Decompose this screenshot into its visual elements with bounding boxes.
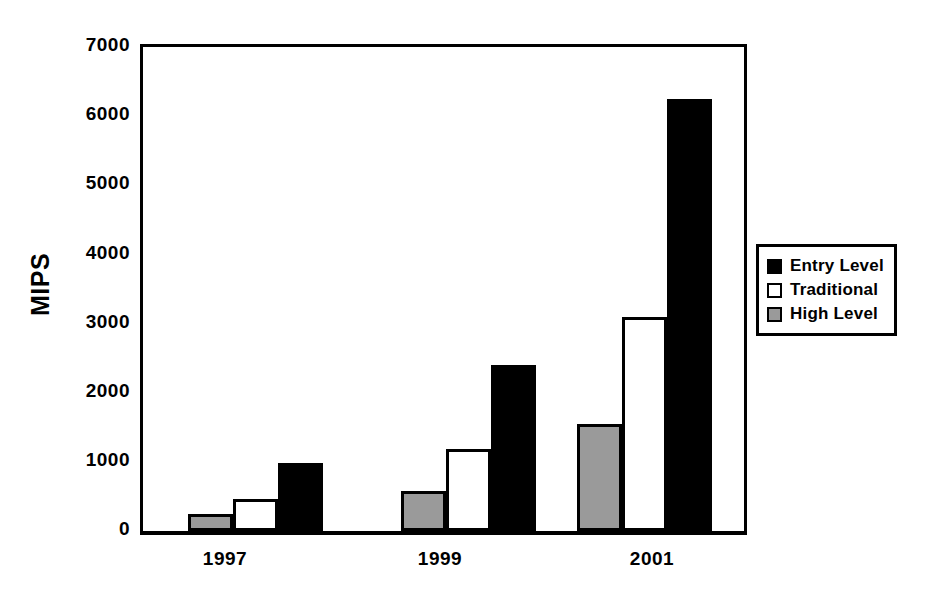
legend-item-label: Entry Level: [790, 256, 884, 276]
y-tick-label: 7000: [50, 35, 130, 54]
bar-traditional: [446, 449, 491, 531]
plot-area: [140, 44, 747, 535]
x-tick-label-1999: 1999: [380, 548, 500, 570]
y-tick-label: 2000: [50, 381, 130, 400]
bar-entry-level: [667, 99, 712, 531]
legend-item-label: High Level: [790, 304, 878, 324]
x-tick-label-1997: 1997: [165, 548, 285, 570]
bar-traditional: [233, 499, 278, 531]
legend: Entry Level Traditional High Level: [756, 244, 897, 336]
gray-swatch-icon: [767, 307, 782, 322]
legend-item-high-level: High Level: [767, 302, 884, 326]
bar-chart: MIPS 7000 6000 5000 4000 3000 2000 1000 …: [0, 0, 931, 598]
y-tick-label: 3000: [50, 312, 130, 331]
legend-item-entry-level: Entry Level: [767, 254, 884, 278]
bar-high-level: [188, 514, 233, 531]
bar-entry-level: [491, 365, 536, 531]
y-tick-label: 4000: [50, 243, 130, 262]
white-swatch-icon: [767, 283, 782, 298]
legend-item-label: Traditional: [790, 280, 878, 300]
bar-entry-level: [278, 463, 323, 531]
bars-container: [143, 47, 744, 531]
y-tick-label: 5000: [50, 173, 130, 192]
y-tick-label: 1000: [50, 450, 130, 469]
bar-high-level: [401, 491, 446, 531]
y-axis-tick-labels: 7000 6000 5000 4000 3000 2000 1000 0: [50, 0, 130, 598]
legend-item-traditional: Traditional: [767, 278, 884, 302]
bar-high-level: [577, 424, 622, 531]
bar-traditional: [622, 317, 667, 531]
y-tick-label: 0: [50, 519, 130, 538]
black-swatch-icon: [767, 259, 782, 274]
y-tick-label: 6000: [50, 104, 130, 123]
x-tick-label-2001: 2001: [592, 548, 712, 570]
